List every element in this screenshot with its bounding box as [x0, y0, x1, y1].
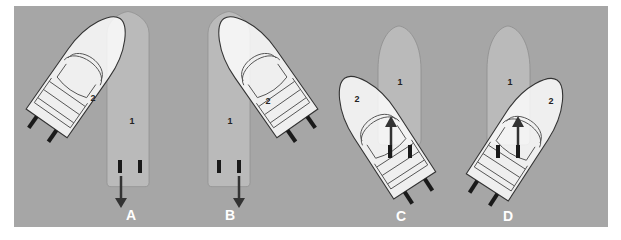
panel-b: 1 2 B	[203, 4, 325, 223]
panel-a: 1 2 A	[18, 4, 149, 223]
boat-2-label: 2	[90, 93, 95, 103]
boat-2-label: 2	[354, 94, 359, 104]
panel-label-c: C	[396, 208, 406, 224]
boat-maneuver-diagram: 1 2 A 1 2 B	[0, 0, 621, 240]
boat-1-label: 1	[397, 77, 402, 87]
panel-label-d: D	[503, 208, 513, 224]
panel-d: 1 2 D	[459, 26, 578, 224]
panel-c: 1 2 C	[324, 26, 443, 224]
panel-label-b: B	[225, 207, 235, 223]
boat-1-label: 1	[227, 116, 232, 126]
panel-label-a: A	[126, 207, 136, 223]
boat-1-label: 1	[129, 116, 134, 126]
boat-2-label: 2	[548, 96, 553, 106]
boat-1-label: 1	[507, 77, 512, 87]
boat-2-label: 2	[265, 96, 270, 106]
